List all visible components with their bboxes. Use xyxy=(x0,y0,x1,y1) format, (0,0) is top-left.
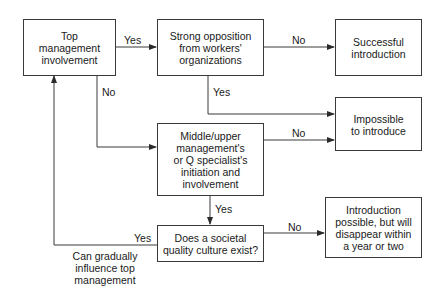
node-label: Strong opposition from workers' organiza… xyxy=(170,30,252,66)
edge-label-yes: Yes xyxy=(124,34,141,46)
node-label: Introduction possible, but will disappea… xyxy=(335,204,411,252)
node-label: Middle/upper management's or Q specialis… xyxy=(174,130,248,190)
feedback-note: Can gradually influence top management xyxy=(70,250,140,286)
edge-label-no: No xyxy=(292,127,305,139)
edge-label-yes: Yes xyxy=(134,232,151,244)
edge-label-yes: Yes xyxy=(213,86,230,98)
node-label: Top management involvement xyxy=(39,30,100,66)
edge-label-no: No xyxy=(288,221,301,233)
edge-label-yes: Yes xyxy=(215,203,232,215)
node-impossible-to-introduce: Impossible to introduce xyxy=(335,97,422,151)
node-label: Does a societal quality culture exist? xyxy=(163,232,258,256)
node-strong-opposition: Strong opposition from workers' organiza… xyxy=(157,19,264,76)
node-societal-quality-culture: Does a societal quality culture exist? xyxy=(157,225,264,262)
node-label: Successful introduction xyxy=(351,36,405,60)
arrow-societal-to-top xyxy=(54,76,157,245)
node-introduction-possible-disappear: Introduction possible, but will disappea… xyxy=(325,197,422,258)
node-middle-management-involvement: Middle/upper management's or Q specialis… xyxy=(157,123,264,196)
edge-label-no: No xyxy=(292,34,305,46)
edge-label-no: No xyxy=(102,86,115,98)
node-label: Impossible to introduce xyxy=(351,113,406,137)
node-top-management-involvement: Top management involvement xyxy=(23,19,116,76)
node-successful-introduction: Successful introduction xyxy=(335,19,422,76)
